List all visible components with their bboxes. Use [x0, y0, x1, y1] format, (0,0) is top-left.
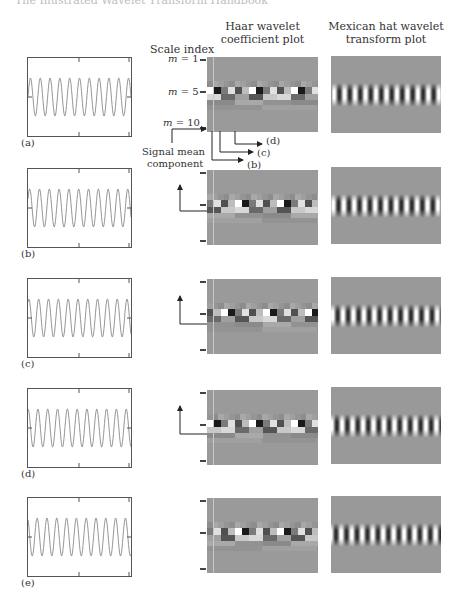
haar-coefficient-cell — [221, 87, 228, 94]
row-label: (d) — [21, 468, 35, 479]
haar-coefficient-cell — [263, 200, 270, 207]
haar-coefficient-cell — [242, 200, 249, 207]
scale-tick — [200, 172, 206, 174]
scale-tick — [200, 91, 206, 93]
scale-tick — [200, 424, 206, 426]
mexican-hat-transform-plot — [331, 277, 441, 354]
haar-coefficient-cell — [228, 528, 235, 535]
haar-coefficient-cell — [298, 528, 305, 535]
haar-coefficient-cell — [207, 218, 262, 223]
haar-coefficient-cell — [235, 200, 242, 207]
haar-title-line1: Haar wavelet — [205, 20, 320, 33]
scale-tick — [200, 281, 206, 283]
haar-coefficient-cell — [270, 528, 277, 535]
haar-coefficient-cell — [262, 218, 317, 223]
haar-coefficient-cell — [207, 546, 262, 551]
haar-coefficient-cell — [214, 528, 221, 535]
haar-coefficient-cell — [256, 420, 263, 427]
haar-coefficient-cell — [235, 528, 242, 535]
haar-coefficient-cell — [235, 87, 242, 94]
haar-coefficient-cell — [228, 309, 235, 316]
haar-coefficient-cell — [277, 309, 284, 316]
haar-coefficient-cell — [312, 87, 318, 94]
haar-coefficient-cell — [317, 327, 318, 332]
scale-tick — [200, 568, 206, 570]
haar-coefficient-cell — [305, 87, 312, 94]
signal-mean-arrow-d — [180, 406, 207, 434]
signal-plot — [27, 497, 132, 577]
haar-coefficient-cell — [298, 200, 305, 207]
haar-coefficient-cell — [262, 327, 317, 332]
transform-column — [440, 277, 441, 354]
haar-coefficient-cell — [262, 105, 317, 110]
signal-waveform — [28, 409, 131, 447]
scale-tick — [200, 532, 206, 534]
transform-column — [440, 496, 441, 573]
haar-coefficient-cell — [312, 420, 318, 427]
haar-coefficient-plot — [207, 498, 318, 573]
haar-coefficient-cell — [298, 309, 305, 316]
haar-coefficient-cell — [270, 309, 277, 316]
transform-column — [440, 387, 441, 464]
haar-coefficient-plot — [207, 170, 318, 245]
haar-coefficient-cell — [228, 200, 235, 207]
haar-coefficient-cell — [291, 200, 298, 207]
haar-coefficient-cell — [284, 309, 291, 316]
signal-waveform — [28, 78, 131, 116]
haar-coefficient-cell — [221, 420, 228, 427]
signal-mean-arrow — [172, 129, 206, 143]
scale-label-m10: m = 10 — [163, 117, 200, 128]
mexican-hat-transform-plot — [331, 387, 441, 464]
haar-coefficient-cell — [277, 200, 284, 207]
transform-column — [440, 167, 441, 244]
arrow-label-d: (d) — [266, 135, 280, 146]
haar-coefficient-cell — [305, 200, 312, 207]
haar-coefficient-cell — [256, 309, 263, 316]
signal-waveform — [28, 518, 131, 556]
haar-coefficient-cell — [214, 420, 221, 427]
haar-coefficient-cell — [298, 87, 305, 94]
haar-coefficient-cell — [263, 420, 270, 427]
haar-title-line2: coefficient plot — [205, 33, 320, 46]
haar-coefficient-plot — [207, 279, 318, 354]
haar-coefficient-plot — [207, 57, 318, 132]
arrow-label-b: (b) — [247, 159, 261, 170]
haar-coefficient-cell — [214, 87, 221, 94]
haar-coefficient-cell — [207, 105, 262, 110]
haar-coefficient-cell — [228, 420, 235, 427]
haar-coefficient-cell — [249, 528, 256, 535]
haar-coefficient-cell — [235, 309, 242, 316]
haar-coefficient-cell — [291, 309, 298, 316]
scale-label-m5: m = 5 — [168, 86, 199, 97]
scale-tick — [200, 240, 206, 242]
haar-coefficient-cell — [291, 420, 298, 427]
shift-arrow-c — [220, 131, 253, 152]
scale-tick — [200, 500, 206, 502]
haar-coefficient-cell — [284, 200, 291, 207]
haar-coefficient-cell — [305, 309, 312, 316]
haar-coefficient-cell — [291, 528, 298, 535]
haar-coefficient-cell — [256, 200, 263, 207]
haar-coefficient-cell — [242, 309, 249, 316]
signal-waveform — [28, 299, 131, 337]
mex-title-line2: transform plot — [320, 33, 452, 46]
haar-coefficient-cell — [221, 309, 228, 316]
haar-coefficient-cell — [312, 200, 318, 207]
page-header: The Illustrated Wavelet Transform Handbo… — [15, 0, 268, 7]
transform-column — [440, 56, 441, 133]
signal-waveform — [28, 189, 131, 227]
haar-coefficient-cell — [277, 528, 284, 535]
shift-arrow-b — [212, 131, 243, 160]
haar-coefficient-cell — [270, 420, 277, 427]
haar-coefficient-cell — [317, 546, 318, 551]
row-label: (b) — [21, 248, 35, 259]
scale-tick — [200, 127, 206, 129]
haar-coefficient-cell — [256, 87, 263, 94]
haar-coefficient-cell — [312, 309, 318, 316]
haar-coefficient-cell — [277, 87, 284, 94]
signal-mean-line — [213, 498, 214, 573]
row-label: (e) — [21, 577, 35, 588]
haar-coefficient-cell — [221, 528, 228, 535]
scale-tick — [200, 59, 206, 61]
haar-coefficient-cell — [317, 218, 318, 223]
